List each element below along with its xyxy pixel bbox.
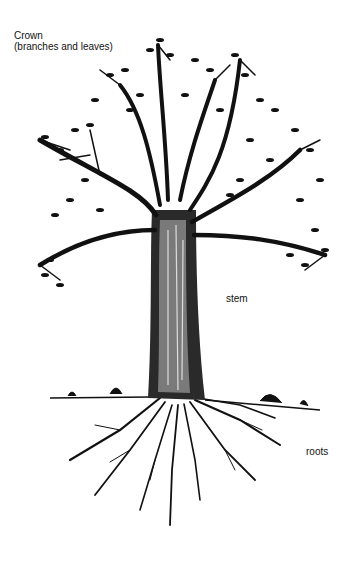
tree-illustration <box>0 0 351 561</box>
roots <box>70 398 280 525</box>
crown-label: Crown (branches and leaves) <box>14 30 113 52</box>
crown-label-subtitle: (branches and leaves) <box>14 41 113 52</box>
trunk <box>148 210 205 400</box>
stem-label: stem <box>226 293 248 304</box>
crown-label-title: Crown <box>14 30 113 41</box>
roots-label: roots <box>306 446 328 457</box>
